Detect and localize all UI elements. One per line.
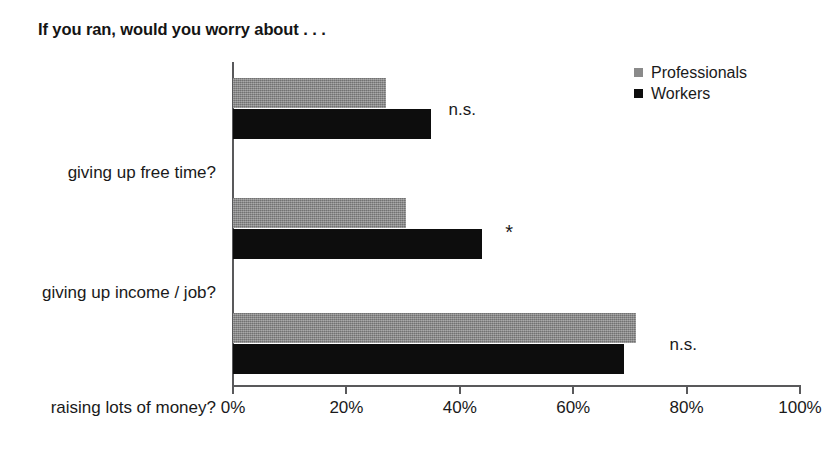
bar-chart: If you ran, would you worry about . . . … bbox=[0, 0, 837, 456]
category-axis-labels: giving up free time? giving up income / … bbox=[0, 62, 216, 385]
significance-note-1: * bbox=[505, 222, 513, 242]
x-tick-label-5: 100% bbox=[778, 398, 821, 418]
bar-professionals-0 bbox=[233, 78, 386, 108]
x-tick-label-4: 80% bbox=[670, 398, 704, 418]
x-tick-label-2: 40% bbox=[443, 398, 477, 418]
x-axis-line bbox=[232, 385, 801, 387]
chart-title: If you ran, would you worry about . . . bbox=[38, 20, 326, 39]
bar-workers-1 bbox=[233, 229, 482, 259]
significance-note-2: n.s. bbox=[670, 335, 697, 355]
category-label-1: giving up income / job? bbox=[42, 283, 216, 303]
significance-note-0: n.s. bbox=[448, 100, 475, 120]
x-tick-label-3: 60% bbox=[556, 398, 590, 418]
x-tick-2 bbox=[459, 385, 461, 394]
bar-workers-2 bbox=[233, 344, 624, 374]
x-tick-3 bbox=[572, 385, 574, 394]
x-tick-1 bbox=[345, 385, 347, 394]
plot-area: 0%20%40%60%80%100% n.s.*n.s. bbox=[233, 62, 800, 385]
x-tick-0 bbox=[232, 385, 234, 394]
category-label-2: raising lots of money? bbox=[51, 398, 216, 418]
bar-professionals-2 bbox=[233, 313, 636, 343]
x-tick-4 bbox=[686, 385, 688, 394]
x-tick-label-0: 0% bbox=[221, 398, 246, 418]
x-tick-5 bbox=[799, 385, 801, 394]
bar-workers-0 bbox=[233, 109, 431, 139]
x-tick-label-1: 20% bbox=[329, 398, 363, 418]
category-label-0: giving up free time? bbox=[68, 163, 216, 183]
bar-professionals-1 bbox=[233, 198, 406, 228]
